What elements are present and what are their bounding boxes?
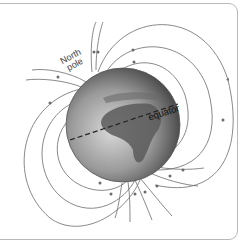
magnetic-field-diagram: [0, 0, 246, 249]
earth-globe: [66, 68, 180, 182]
